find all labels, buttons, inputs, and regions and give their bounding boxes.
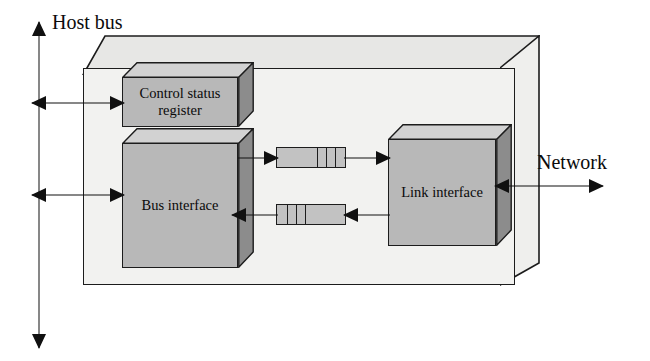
block-control-status-register[interactable]: Control statusregister bbox=[122, 62, 254, 127]
link-interface-top-face bbox=[388, 124, 512, 140]
hostbus-csr-arrowhead-left bbox=[31, 96, 46, 110]
hostbus-csr-arrowhead-right bbox=[110, 96, 125, 110]
control-status-register-top-face bbox=[122, 62, 254, 78]
link-interface-front-face: Link interface bbox=[388, 139, 496, 246]
network-arrowhead-right bbox=[589, 179, 604, 193]
link-interface-label: Link interface bbox=[395, 184, 489, 201]
host-bus-arrowhead-up bbox=[32, 21, 46, 36]
connector-network-to-link-interface[interactable] bbox=[495, 178, 603, 194]
host-bus-label: Host bus bbox=[52, 12, 123, 32]
outgoing-fifo-cell-divider-1 bbox=[317, 148, 318, 167]
incoming-fifo-cell-divider-1 bbox=[287, 205, 288, 224]
control-status-register-label: Control statusregister bbox=[134, 85, 227, 119]
control-status-register-side-face bbox=[238, 62, 254, 127]
network-arrowhead-left bbox=[494, 179, 509, 193]
buffer-incoming-fifo[interactable] bbox=[276, 204, 346, 225]
hostbus-businterface-arrowhead-left bbox=[31, 188, 46, 202]
incoming-fifo-cell-divider-2 bbox=[296, 205, 297, 224]
network-shaft bbox=[495, 186, 603, 187]
incoming-fifo-cell-divider-3 bbox=[305, 205, 306, 224]
linkinterface-fifo-arrowhead bbox=[343, 208, 358, 222]
businterface-fifo-arrowhead bbox=[264, 151, 279, 165]
connector-link-interface-to-incoming-fifo[interactable] bbox=[344, 207, 390, 223]
hostbus-businterface-arrowhead-right bbox=[110, 188, 125, 202]
connector-incoming-fifo-to-bus-interface[interactable] bbox=[232, 207, 278, 223]
outgoing-fifo-cell-divider-2 bbox=[326, 148, 327, 167]
bus-interface-side-face bbox=[238, 128, 254, 268]
connector-host-bus-line[interactable] bbox=[31, 22, 47, 348]
host-bus-shaft bbox=[39, 22, 40, 348]
fifo-linkinterface-arrowhead bbox=[376, 151, 391, 165]
connector-outgoing-fifo-to-link-interface[interactable] bbox=[344, 150, 390, 166]
block-bus-interface[interactable]: Bus interface bbox=[122, 128, 254, 268]
bus-interface-label: Bus interface bbox=[136, 197, 225, 214]
outgoing-fifo-cell-divider-3 bbox=[335, 148, 336, 167]
host-bus-arrowhead-down bbox=[32, 334, 46, 349]
bus-interface-front-face: Bus interface bbox=[122, 143, 238, 268]
connector-hostbus-to-control-status-register[interactable] bbox=[32, 95, 124, 111]
bus-interface-top-face bbox=[122, 128, 254, 144]
connector-hostbus-to-bus-interface[interactable] bbox=[32, 187, 124, 203]
diagram-canvas: Control statusregister Bus interface Lin… bbox=[0, 0, 650, 361]
network-label: Network bbox=[537, 152, 607, 172]
control-status-register-front-face: Control statusregister bbox=[122, 77, 238, 127]
buffer-outgoing-fifo[interactable] bbox=[276, 147, 346, 168]
fifo-businterface-arrowhead bbox=[231, 208, 246, 222]
connector-bus-interface-to-outgoing-fifo[interactable] bbox=[238, 150, 278, 166]
